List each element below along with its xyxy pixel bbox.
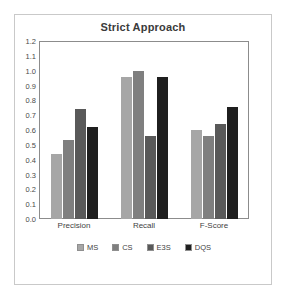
- bar-groups: [39, 41, 249, 219]
- y-axis-tick: 1.0: [26, 66, 36, 75]
- y-axis-tick: 0.0: [26, 215, 36, 224]
- bar-e3s-f-score: [215, 124, 226, 219]
- y-axis-tick: 0.8: [26, 96, 36, 105]
- chart-legend: MSCSE3SDQS: [39, 243, 249, 252]
- bar-cs-f-score: [203, 136, 214, 219]
- x-axis-label: F-Score: [179, 221, 249, 235]
- y-axis-tick: 0.4: [26, 155, 36, 164]
- legend-swatch-icon: [77, 244, 84, 251]
- bar-dqs-f-score: [227, 107, 238, 219]
- y-axis-tick: 0.3: [26, 170, 36, 179]
- legend-swatch-icon: [185, 244, 192, 251]
- legend-label: CS: [122, 243, 132, 252]
- bar-ms-precision: [51, 154, 62, 219]
- bar-cs-recall: [133, 71, 144, 219]
- bar-cs-precision: [63, 140, 74, 219]
- x-axis-label: Precision: [39, 221, 109, 235]
- x-axis-labels: PrecisionRecallF-Score: [39, 221, 249, 235]
- bar-e3s-recall: [145, 136, 156, 219]
- x-axis-label: Recall: [109, 221, 179, 235]
- legend-item-cs: CS: [112, 243, 132, 252]
- y-axis-tick: 0.5: [26, 140, 36, 149]
- legend-item-dqs: DQS: [185, 243, 211, 252]
- y-axis-tick: 1.2: [26, 37, 36, 46]
- bar-dqs-recall: [157, 77, 168, 219]
- bar-ms-recall: [121, 77, 132, 219]
- bar-dqs-precision: [87, 127, 98, 219]
- y-axis-tick: 1.1: [26, 51, 36, 60]
- bar-group: [39, 41, 109, 219]
- legend-swatch-icon: [147, 244, 154, 251]
- legend-label: DQS: [195, 243, 211, 252]
- bar-e3s-precision: [75, 109, 86, 219]
- y-axis-tick: 0.9: [26, 81, 36, 90]
- bar-ms-f-score: [191, 130, 202, 219]
- bar-group: [179, 41, 249, 219]
- chart-title: Strict Approach: [15, 21, 271, 33]
- legend-swatch-icon: [112, 244, 119, 251]
- y-axis-tick: 0.2: [26, 185, 36, 194]
- legend-label: MS: [87, 243, 98, 252]
- y-axis: 1.21.11.00.90.80.70.60.50.40.30.20.10.0: [15, 41, 39, 219]
- legend-label: E3S: [157, 243, 171, 252]
- chart-figure: Strict Approach 1.21.11.00.90.80.70.60.5…: [14, 14, 272, 285]
- y-axis-tick: 0.6: [26, 126, 36, 135]
- legend-item-ms: MS: [77, 243, 98, 252]
- y-axis-tick: 0.7: [26, 111, 36, 120]
- legend-item-e3s: E3S: [147, 243, 171, 252]
- y-axis-tick: 0.1: [26, 200, 36, 209]
- bar-group: [109, 41, 179, 219]
